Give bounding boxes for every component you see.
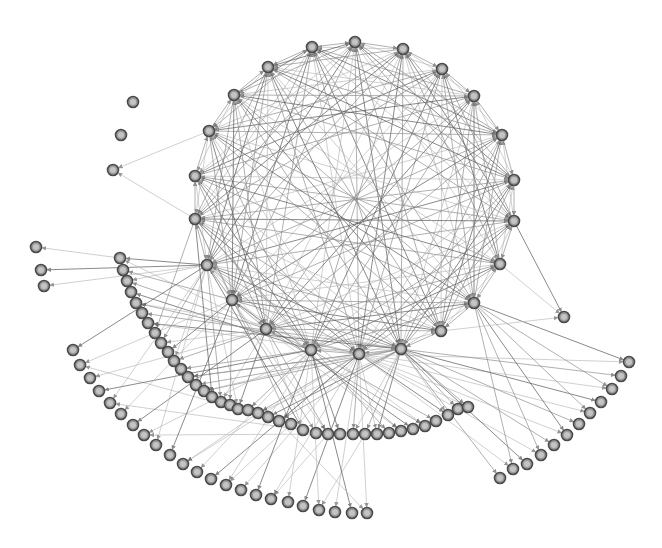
ring-node[interactable] [396, 344, 407, 355]
leaf-node[interactable] [559, 312, 570, 323]
edge [270, 139, 498, 326]
arc-node[interactable] [126, 287, 137, 298]
edge [273, 69, 496, 134]
ring-node[interactable] [509, 175, 520, 186]
outer-arc-node[interactable] [105, 398, 116, 409]
ring-node[interactable] [306, 345, 317, 356]
outer-arc-node[interactable] [330, 507, 341, 518]
ring-node[interactable] [202, 260, 213, 271]
outer-arc-node[interactable] [236, 485, 247, 496]
outer-arc-node[interactable] [574, 419, 585, 430]
ring-node[interactable] [436, 326, 447, 337]
outer-arc-node[interactable] [283, 497, 294, 508]
outer-arc-node[interactable] [68, 345, 79, 356]
outer-arc-node[interactable] [94, 386, 105, 397]
arc-node[interactable] [408, 424, 419, 435]
arc-node[interactable] [274, 416, 285, 427]
outer-arc-node[interactable] [536, 450, 547, 461]
ring-node[interactable] [190, 171, 201, 182]
outer-arc-node[interactable] [522, 459, 533, 470]
ring-node[interactable] [495, 259, 506, 270]
outer-arc-node[interactable] [624, 357, 635, 368]
arc-node[interactable] [311, 428, 322, 439]
outer-arc-node[interactable] [165, 450, 176, 461]
ring-node[interactable] [263, 62, 274, 73]
arc-node[interactable] [384, 428, 395, 439]
ring-node[interactable] [497, 130, 508, 141]
outer-arc-node[interactable] [607, 384, 618, 395]
outer-arc-node[interactable] [347, 508, 358, 519]
arc-node[interactable] [420, 421, 431, 432]
ring-node[interactable] [469, 298, 480, 309]
ring-node[interactable] [261, 324, 272, 335]
outer-arc-node[interactable] [151, 440, 162, 451]
arc-node[interactable] [115, 253, 126, 264]
edge [128, 272, 226, 299]
outer-arc-node[interactable] [562, 430, 573, 441]
arc-node[interactable] [118, 265, 129, 276]
outer-arc-node[interactable] [85, 373, 96, 384]
outer-arc-node[interactable] [116, 409, 127, 420]
ring-node[interactable] [509, 216, 520, 227]
outer-arc-node[interactable] [585, 408, 596, 419]
outer-arc-node[interactable] [206, 474, 217, 485]
arc-node[interactable] [360, 429, 371, 440]
ring-node[interactable] [229, 90, 240, 101]
outer-arc-node[interactable] [298, 501, 309, 512]
arc-node[interactable] [463, 402, 474, 413]
outer-arc-node[interactable] [362, 508, 373, 519]
edge [313, 52, 358, 348]
edge [188, 357, 355, 461]
ring-node[interactable] [227, 295, 238, 306]
ring-node[interactable] [398, 44, 409, 55]
edge [238, 71, 264, 92]
leaf-node[interactable] [39, 281, 50, 292]
arc-node[interactable] [323, 429, 334, 440]
outer-arc-node[interactable] [266, 494, 277, 505]
outer-arc-node[interactable] [192, 467, 203, 478]
outer-arc-node[interactable] [221, 480, 232, 491]
arc-node[interactable] [263, 412, 274, 423]
ring-node[interactable] [469, 91, 480, 102]
arc-node[interactable] [335, 429, 346, 440]
edge [126, 258, 202, 264]
arc-node[interactable] [122, 276, 133, 287]
arc-node[interactable] [372, 429, 383, 440]
outer-arc-node[interactable] [251, 490, 262, 501]
outer-arc-node[interactable] [495, 473, 506, 484]
outer-arc-node[interactable] [314, 505, 325, 516]
ring-node[interactable] [437, 64, 448, 75]
arc-node[interactable] [286, 419, 297, 430]
outer-arc-node[interactable] [508, 464, 519, 475]
arc-node[interactable] [143, 318, 154, 329]
ring-node[interactable] [190, 214, 201, 225]
arc-node[interactable] [396, 426, 407, 437]
arc-node[interactable] [150, 328, 161, 339]
arc-node[interactable] [137, 308, 148, 319]
edge [445, 307, 470, 328]
ring-node[interactable] [354, 349, 365, 360]
outer-arc-node[interactable] [616, 371, 627, 382]
edge [232, 101, 234, 295]
arc-node[interactable] [453, 404, 464, 415]
isolated-node[interactable] [116, 130, 127, 141]
ring-node[interactable] [204, 126, 215, 137]
leaf-node[interactable] [31, 242, 42, 253]
ring-node[interactable] [350, 37, 361, 48]
leaf-node[interactable] [36, 265, 47, 276]
arc-node[interactable] [348, 429, 359, 440]
isolated-node[interactable] [128, 97, 139, 108]
ring-node[interactable] [307, 42, 318, 53]
outer-arc-node[interactable] [128, 420, 139, 431]
arc-node[interactable] [131, 298, 142, 309]
outer-arc-node[interactable] [75, 360, 86, 371]
edge [476, 308, 539, 450]
outer-arc-node[interactable] [596, 397, 607, 408]
arc-node[interactable] [298, 425, 309, 436]
isolated-node[interactable] [108, 165, 119, 176]
arc-node[interactable] [431, 416, 442, 427]
outer-arc-node[interactable] [139, 430, 150, 441]
outer-arc-node[interactable] [549, 440, 560, 451]
arc-node[interactable] [443, 410, 454, 421]
outer-arc-node[interactable] [178, 459, 189, 470]
